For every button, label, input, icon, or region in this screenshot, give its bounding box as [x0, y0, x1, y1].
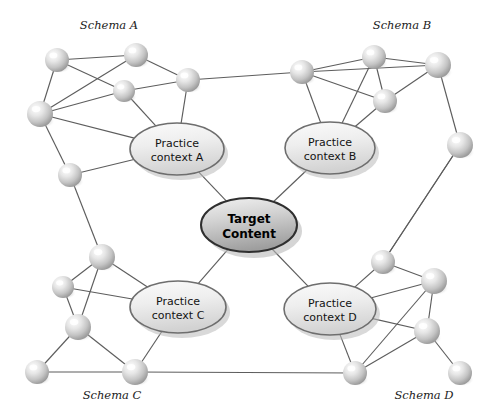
practice-context-c[interactable]: Practicecontext C — [130, 281, 230, 338]
node-sphere — [343, 361, 367, 385]
context-target-edge — [273, 170, 306, 202]
node-sphere — [425, 52, 451, 78]
node-highlight — [347, 366, 355, 372]
node-highlight — [452, 137, 461, 143]
schema-label-a: Schema A — [80, 18, 138, 32]
node-highlight — [366, 50, 374, 56]
node-highlight — [294, 65, 302, 71]
node-highlight — [29, 365, 37, 371]
schema-label-b: Schema B — [373, 18, 431, 32]
practice-context-label-line2: context A — [151, 151, 204, 164]
node-highlight — [430, 57, 439, 63]
schema-node[interactable] — [45, 48, 71, 73]
schema-label-c: Schema C — [83, 388, 142, 402]
node-sphere — [448, 361, 472, 385]
schema-network-diagram: Practicecontext APracticecontext BPracti… — [0, 0, 495, 418]
practice-context-b[interactable]: Practicecontext B — [285, 122, 379, 179]
practice-context-label-line1: Practice — [308, 136, 352, 149]
node-highlight — [375, 255, 383, 261]
schema-node[interactable] — [362, 45, 388, 70]
node-highlight — [62, 168, 70, 174]
practice-context-label-line2: context C — [152, 309, 205, 322]
target-content-layer: TargetContent — [201, 198, 302, 258]
schema-label-d: Schema D — [394, 388, 453, 402]
node-sphere — [122, 359, 148, 385]
graph-edge — [188, 72, 302, 80]
node-sphere — [52, 276, 74, 298]
schema-node[interactable] — [122, 359, 150, 386]
target-content-label-line2: Content — [222, 227, 276, 241]
schema-node[interactable] — [25, 360, 51, 385]
node-sphere — [447, 132, 473, 158]
node-highlight — [128, 48, 136, 54]
node-sphere — [113, 80, 135, 102]
node-highlight — [180, 73, 188, 79]
node-highlight — [94, 249, 103, 255]
context-target-edge — [198, 249, 228, 283]
schema-node[interactable] — [124, 43, 150, 68]
node-highlight — [419, 323, 428, 329]
target-content[interactable]: TargetContent — [201, 198, 302, 258]
schema-node[interactable] — [371, 250, 397, 275]
target-content-label-line1: Target — [227, 212, 270, 226]
schema-node[interactable] — [176, 68, 202, 93]
schema-node[interactable] — [447, 132, 475, 159]
schema-node[interactable] — [425, 52, 453, 79]
node-sphere — [89, 244, 115, 270]
graph-edge — [383, 145, 460, 262]
practice-context-label-line1: Practice — [155, 137, 199, 150]
schema-node[interactable] — [290, 60, 316, 85]
node-sphere — [290, 60, 314, 84]
node-sphere — [371, 250, 395, 274]
node-sphere — [176, 68, 200, 92]
schema-node[interactable] — [343, 361, 369, 386]
practice-context-label-line2: context B — [304, 150, 357, 163]
node-sphere — [45, 48, 69, 72]
schema-node[interactable] — [89, 244, 117, 271]
node-highlight — [127, 364, 136, 370]
node-sphere — [362, 45, 386, 69]
node-sphere — [414, 318, 440, 344]
node-highlight — [56, 280, 63, 285]
node-sphere — [25, 360, 49, 384]
practice-context-label-line1: Practice — [308, 297, 352, 310]
node-sphere — [27, 101, 53, 127]
practice-context-d[interactable]: Practicecontext D — [284, 283, 380, 340]
graph-edge — [40, 91, 124, 114]
node-highlight — [49, 53, 57, 59]
node-sphere — [373, 89, 397, 113]
node-sphere — [124, 43, 148, 67]
practice-context-label-line2: context D — [303, 311, 356, 324]
practice-context-a[interactable]: Practicecontext A — [130, 123, 228, 180]
node-highlight — [426, 273, 435, 279]
schema-node[interactable] — [448, 361, 474, 386]
node-sphere — [58, 163, 82, 187]
node-highlight — [452, 366, 460, 372]
node-highlight — [32, 106, 41, 112]
diagram-canvas: Practicecontext APracticecontext BPracti… — [0, 0, 495, 418]
practice-context-label-line1: Practice — [156, 295, 200, 308]
node-highlight — [377, 94, 385, 100]
node-sphere — [421, 268, 447, 294]
node-sphere — [65, 314, 91, 340]
schema-node[interactable] — [373, 89, 399, 114]
schema-node[interactable] — [113, 80, 137, 103]
schema-node[interactable] — [414, 318, 442, 345]
node-highlight — [117, 84, 124, 89]
node-highlight — [70, 319, 79, 325]
schema-node[interactable] — [27, 101, 55, 128]
graph-edge — [135, 372, 355, 373]
schema-node[interactable] — [58, 163, 84, 188]
node-context-edge — [40, 114, 134, 138]
